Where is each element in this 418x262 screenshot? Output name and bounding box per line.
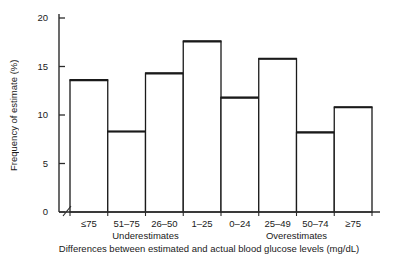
group-label: Underestimates <box>96 231 196 241</box>
bar <box>70 80 108 212</box>
bar <box>146 73 184 212</box>
bar <box>297 132 335 212</box>
bar <box>108 131 146 212</box>
y-tick-label: 0 <box>22 207 48 217</box>
y-tick-label: 5 <box>22 159 48 169</box>
y-tick-label: 15 <box>22 62 48 72</box>
y-tick-label: 20 <box>22 13 48 23</box>
y-tick-label: 10 <box>22 110 48 120</box>
bar-series <box>70 41 373 212</box>
bar <box>334 107 372 212</box>
x-axis-title: Differences between estimated and actual… <box>0 243 418 254</box>
bar <box>221 98 259 212</box>
bar <box>183 41 221 212</box>
x-tick-label: ≥75 <box>328 219 378 229</box>
bar <box>259 59 297 212</box>
group-label: Overestimates <box>247 231 347 241</box>
